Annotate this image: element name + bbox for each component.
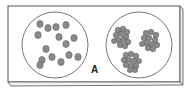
left-well xyxy=(22,12,88,78)
slide-diagram xyxy=(0,0,188,93)
figure-label: A xyxy=(91,64,98,75)
right-well xyxy=(106,12,172,78)
